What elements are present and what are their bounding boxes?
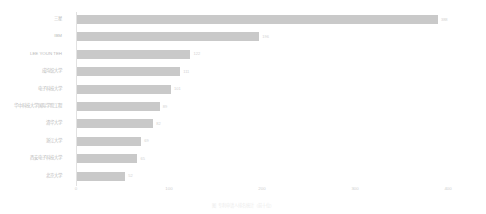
- bar-value-label: 101: [174, 83, 181, 94]
- bar-value-label: 89: [163, 101, 167, 112]
- category-label: 电子科技大学: [38, 83, 62, 94]
- category-label: 华中科技大学国际学院工程: [14, 100, 62, 111]
- bar-value-label: 65: [140, 153, 144, 164]
- x-axis-tick: 400: [444, 186, 451, 191]
- category-label: 浙江大学: [46, 135, 62, 146]
- bar-chart: 三星388IBM196LEE YOUN TEH122成均馆大学111电子科技大学…: [0, 0, 486, 214]
- plot-area: 三星388IBM196LEE YOUN TEH122成均馆大学111电子科技大学…: [76, 12, 476, 186]
- x-axis-tick: 100: [165, 186, 172, 191]
- bar-value-label: 52: [128, 170, 132, 181]
- bar-row: 北京大学52: [76, 169, 476, 186]
- category-label: 西安电子科技大学: [30, 152, 62, 163]
- bar[interactable]: [77, 15, 438, 24]
- bar[interactable]: [77, 67, 180, 76]
- x-axis-tick: 300: [351, 186, 358, 191]
- bar-row: 三星388: [76, 12, 476, 29]
- bar[interactable]: [77, 102, 160, 111]
- bar[interactable]: [77, 154, 137, 163]
- bar-row: 浙江大学69: [76, 134, 476, 151]
- x-axis-tick: 200: [258, 186, 265, 191]
- bar[interactable]: [77, 32, 259, 41]
- bar-row: 成均馆大学111: [76, 64, 476, 81]
- bar[interactable]: [77, 119, 153, 128]
- bar-value-label: 196: [262, 31, 269, 42]
- bar-row: LEE YOUN TEH122: [76, 47, 476, 64]
- bar[interactable]: [77, 137, 141, 146]
- bar[interactable]: [77, 85, 171, 94]
- category-label: 北京大学: [46, 170, 62, 181]
- x-axis: 0100200300400: [76, 186, 476, 200]
- bar-row: 西安电子科技大学65: [76, 151, 476, 168]
- bar-row: 清华大学82: [76, 116, 476, 133]
- bar-value-label: 388: [441, 14, 448, 25]
- bar-row: IBM196: [76, 29, 476, 46]
- category-label: LEE YOUN TEH: [30, 48, 62, 59]
- bar[interactable]: [77, 50, 190, 59]
- chart-caption: 图 专利申请人排名统计（前十位）: [0, 202, 486, 208]
- bar-value-label: 111: [183, 66, 189, 77]
- bar-value-label: 69: [144, 135, 148, 146]
- category-label: 清华大学: [46, 117, 62, 128]
- category-label: 三星: [54, 13, 62, 24]
- bar-value-label: 82: [156, 118, 160, 129]
- bar-value-label: 122: [193, 48, 200, 59]
- x-axis-tick: 0: [75, 186, 77, 191]
- category-label: IBM: [54, 30, 62, 41]
- bar[interactable]: [77, 172, 125, 181]
- bar-row: 电子科技大学101: [76, 82, 476, 99]
- category-label: 成均馆大学: [42, 65, 62, 76]
- bar-row: 华中科技大学国际学院工程89: [76, 99, 476, 116]
